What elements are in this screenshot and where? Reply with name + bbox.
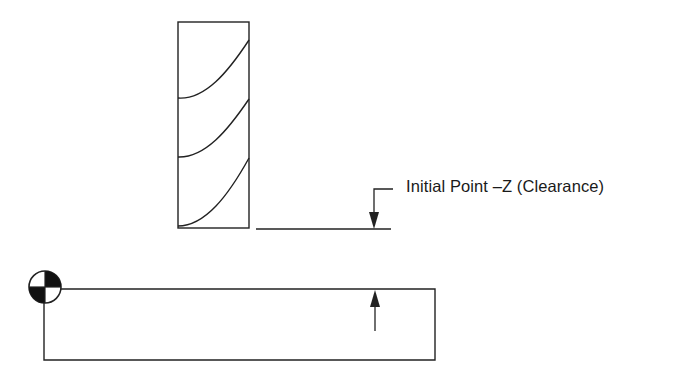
flute-curve-2 [178,99,249,157]
tool-body [178,22,249,228]
flute-curve-3 [178,158,249,226]
leader-bracket [374,189,393,214]
end-mill-tool [178,22,249,228]
arrow-down-icon [369,212,379,229]
clearance-label: Initial Point –Z (Clearance) [406,177,604,196]
work-origin-icon [29,271,61,303]
arrow-up-icon [370,290,380,307]
flute-curve-1 [178,40,249,98]
workpiece-arrow [370,290,380,331]
